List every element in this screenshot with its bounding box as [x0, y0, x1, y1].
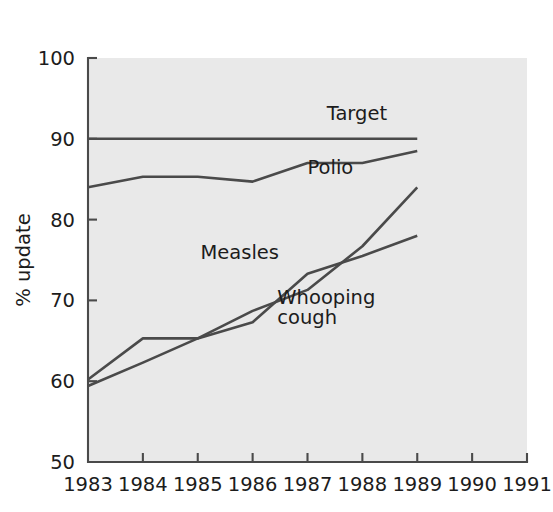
- series-label-cough: cough: [277, 306, 337, 329]
- x-axis-tick-labels: 198319841985198619871988198919901991: [63, 473, 552, 496]
- line-chart: 5060708090100 19831984198519861987198819…: [0, 0, 553, 512]
- x-tick-label: 1986: [228, 473, 278, 496]
- x-tick-label: 1991: [502, 473, 552, 496]
- chart-container: 5060708090100 19831984198519861987198819…: [0, 0, 553, 512]
- x-tick-label: 1987: [283, 473, 333, 496]
- y-axis-tick-labels: 5060708090100: [38, 47, 75, 474]
- y-tick-label: 90: [50, 128, 75, 151]
- series-label-target: Target: [326, 102, 388, 125]
- y-axis-title: % update: [12, 213, 35, 306]
- y-tick-label: 70: [50, 289, 75, 312]
- y-tick-label: 100: [38, 47, 75, 70]
- x-tick-label: 1984: [118, 473, 168, 496]
- x-tick-label: 1983: [63, 473, 113, 496]
- y-tick-label: 80: [50, 209, 75, 232]
- plot-area-background: [88, 58, 527, 462]
- series-label-polio: Polio: [308, 156, 354, 179]
- x-tick-label: 1988: [338, 473, 388, 496]
- x-tick-label: 1989: [392, 473, 442, 496]
- x-tick-label: 1985: [173, 473, 223, 496]
- x-tick-label: 1990: [447, 473, 497, 496]
- series-label-measles: Measles: [200, 241, 279, 264]
- y-tick-label: 50: [50, 451, 75, 474]
- y-tick-label: 60: [50, 370, 75, 393]
